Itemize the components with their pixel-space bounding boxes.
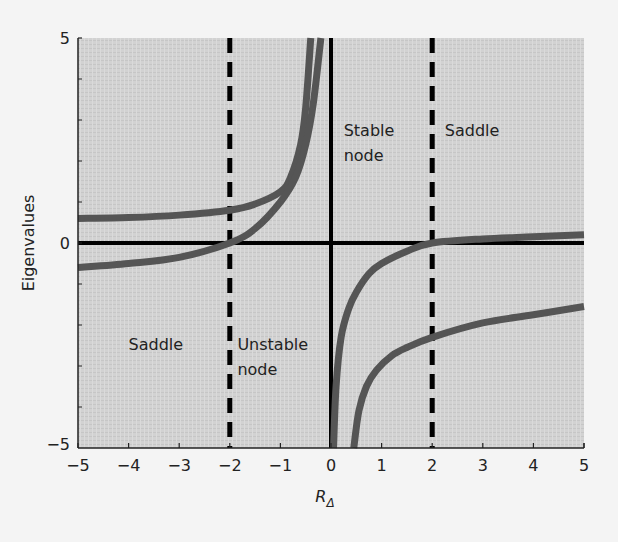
x-tick-label: −4	[117, 456, 141, 475]
x-tick-label: −3	[167, 456, 191, 475]
region-label-saddle: Saddle	[129, 335, 184, 354]
x-tick-label: 4	[528, 456, 538, 475]
x-tick-label: −5	[66, 456, 90, 475]
x-tick-label: −2	[218, 456, 242, 475]
y-tick-label: −5	[46, 435, 70, 454]
region-label-saddle: Saddle	[445, 121, 500, 140]
eigenvalue-chart: −5−4−3−2−1012345−505 SaddleUnstablenodeS…	[0, 0, 618, 542]
y-tick-label: 0	[60, 234, 70, 253]
x-tick-label: 0	[326, 456, 336, 475]
x-tick-label: 2	[427, 456, 437, 475]
x-tick-label: 1	[377, 456, 387, 475]
y-tick-label: 5	[60, 29, 70, 48]
x-tick-label: −1	[269, 456, 293, 475]
x-tick-label: 5	[579, 456, 589, 475]
y-axis-title: Eigenvalues	[19, 195, 38, 292]
x-tick-label: 3	[478, 456, 488, 475]
x-axis-title: RΔ	[315, 487, 334, 510]
